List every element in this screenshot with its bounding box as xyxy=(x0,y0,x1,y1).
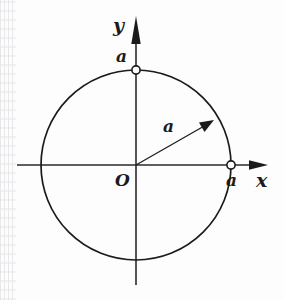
x-axis-label: x xyxy=(256,171,267,190)
marker-y-intercept xyxy=(132,66,140,74)
y-axis-arrowhead xyxy=(131,16,140,44)
y-axis-label: y xyxy=(113,16,124,35)
y-intercept-label: a xyxy=(116,48,127,65)
marker-x-intercept xyxy=(227,161,235,169)
figure-canvas xyxy=(0,0,284,300)
radius-vector-arrowhead xyxy=(199,120,214,132)
origin-label: O xyxy=(115,172,130,189)
geometry-figure: y x O a a a xyxy=(0,0,284,300)
x-intercept-label: a xyxy=(226,172,237,189)
radius-label: a xyxy=(163,118,174,135)
